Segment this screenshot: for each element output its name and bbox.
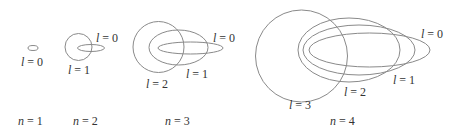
label-n2: n = 2 — [73, 114, 98, 128]
label-n3-l2: l = 2 — [146, 77, 168, 91]
label-n2-l1: l = 1 — [68, 63, 90, 77]
label-n2-l0: l = 0 — [96, 31, 118, 45]
label-n4-l0: l = 0 — [421, 27, 443, 41]
label-n4-l3: l = 3 — [289, 98, 311, 112]
group-n3: l = 0 l = 1 l = 2 n = 3 — [133, 22, 235, 129]
orbit-shapes-diagram: l = 0 n = 1 l = 0 l = 1 n = 2 l = 0 l = … — [0, 0, 461, 132]
label-n3: n = 3 — [165, 114, 190, 128]
label-n3-l0: l = 0 — [213, 31, 235, 45]
orbit-n4-l3 — [256, 10, 348, 102]
label-n3-l1: l = 1 — [186, 67, 208, 81]
orbit-n4-l0 — [309, 33, 430, 67]
label-n4: n = 4 — [330, 114, 355, 128]
group-n4: l = 0 l = 1 l = 2 l = 3 n = 4 — [256, 10, 444, 128]
label-n1-l0: l = 0 — [21, 55, 43, 69]
group-n2: l = 0 l = 1 n = 2 — [65, 31, 118, 128]
orbit-n4-l1 — [303, 25, 415, 75]
label-n4-l2: l = 2 — [344, 85, 366, 99]
orbit-n4-l2 — [298, 18, 400, 82]
label-n4-l1: l = 1 — [393, 73, 415, 87]
group-n1: l = 0 n = 1 — [18, 46, 43, 129]
label-n1: n = 1 — [18, 114, 43, 128]
orbit-n1-l0 — [28, 46, 38, 51]
orbit-n2-l0 — [78, 45, 105, 52]
